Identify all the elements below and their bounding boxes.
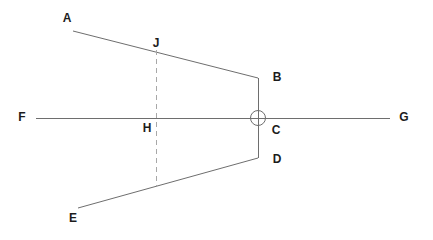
point-label-e: E [69, 211, 77, 225]
point-label-f: F [18, 110, 25, 124]
point-label-b: B [273, 70, 282, 84]
line-a-b [73, 31, 258, 78]
point-label-g: G [399, 110, 408, 124]
point-label-a: A [63, 11, 72, 25]
line-d-e [78, 158, 258, 208]
geometry-canvas: A J B C D E F G H [0, 0, 433, 240]
point-label-c: C [272, 123, 281, 137]
point-label-d: D [273, 152, 282, 166]
point-label-h: H [143, 121, 152, 135]
geometry-diagram: A J B C D E F G H [0, 0, 433, 240]
point-label-j: J [153, 36, 160, 50]
